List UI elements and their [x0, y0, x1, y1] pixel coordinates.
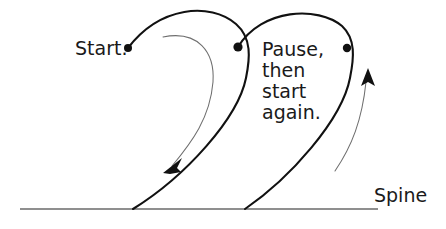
pause-label-line-4: again.	[262, 101, 321, 123]
pause-point-dot	[233, 42, 242, 51]
restart-point-dot	[343, 44, 351, 52]
pause-instruction-label: Pause, then start again.	[262, 38, 330, 123]
spine-wave-diagram: Start. Pause, then start again. Spine	[0, 0, 446, 229]
pause-label-line-1: Pause,	[262, 38, 324, 60]
spine-label: Spine	[374, 184, 427, 206]
diagram-canvas: Start. Pause, then start again. Spine	[0, 0, 446, 229]
left-loop-curve	[128, 11, 249, 209]
right-motion-guide-arc	[335, 82, 366, 171]
downward-motion-arrow-icon	[163, 158, 182, 174]
start-label: Start.	[75, 37, 127, 59]
upward-motion-arrow-icon	[361, 68, 375, 86]
pause-label-line-3: start	[262, 80, 306, 102]
pause-label-line-2: then	[262, 59, 305, 81]
